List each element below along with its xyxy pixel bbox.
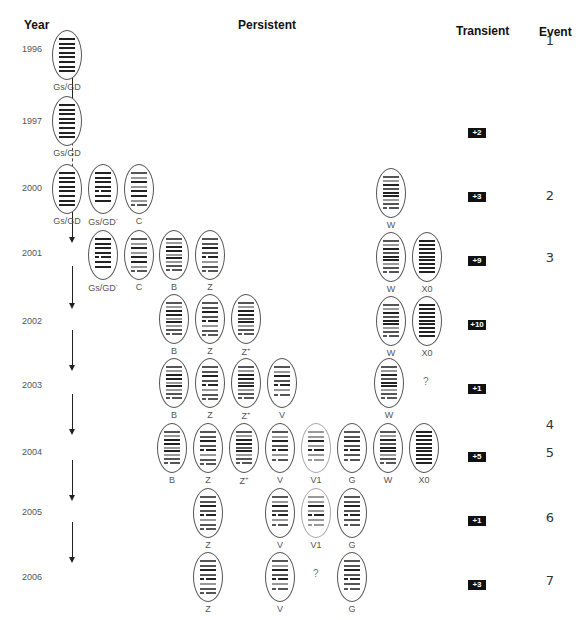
genotype-ellipse-icon: [409, 423, 439, 473]
genotype-ellipse-icon: [193, 423, 223, 473]
gene-band: [381, 378, 397, 380]
gene-band: [344, 501, 360, 503]
strain-gsgd: Gs/GD: [52, 164, 82, 226]
gene-band: [95, 181, 111, 183]
gene-band: [344, 454, 360, 456]
arrow-down-icon: [72, 266, 73, 304]
gene-band: [95, 172, 111, 174]
gene-band: [131, 247, 147, 249]
gene-band: [164, 450, 180, 452]
genotype-ellipse-icon: [231, 294, 261, 344]
gene-band: [383, 271, 399, 273]
gene-band: [164, 458, 180, 460]
strain-label: B: [159, 346, 189, 356]
strain-w: W: [376, 168, 406, 230]
strain-v1: V1: [301, 423, 331, 485]
gene-band: [200, 454, 216, 456]
strain-g: G: [337, 488, 367, 550]
gene-band: [419, 267, 435, 269]
gene-band: [59, 132, 75, 134]
gene-band: [238, 302, 254, 304]
gene-band: [381, 374, 397, 376]
gene-band: [166, 257, 182, 259]
strain-z: Z: [195, 294, 225, 356]
gene-band: [200, 510, 216, 512]
gene-band: [59, 127, 75, 129]
event-number: 5: [540, 445, 560, 460]
strain-label: B: [159, 282, 189, 292]
gene-band: [200, 449, 216, 451]
gene-band: [166, 302, 182, 304]
gene-band: [383, 244, 399, 246]
genotype-ellipse-icon: [373, 423, 403, 473]
gene-band: [238, 397, 254, 399]
gene-band: [95, 266, 111, 268]
gene-band: [272, 514, 288, 516]
gene-band: [202, 394, 218, 396]
gene-band: [344, 436, 360, 438]
strain-label: W: [374, 410, 404, 420]
gene-band: [383, 199, 399, 201]
gene-band: [59, 186, 75, 188]
strain-label: G: [337, 604, 367, 614]
gene-band: [383, 323, 399, 325]
strain-label: X0: [409, 475, 439, 485]
gene-band: [164, 431, 180, 433]
year-label: 2006: [12, 572, 52, 582]
genotype-ellipse-icon: [265, 488, 295, 538]
strain-label: G: [337, 540, 367, 550]
gene-band: [131, 190, 147, 192]
gene-band: [95, 195, 111, 197]
gene-band: [166, 254, 182, 256]
gene-band: [164, 443, 180, 445]
genotype-ellipse-icon: [267, 358, 297, 408]
gene-band: [238, 329, 254, 331]
genotype-ellipse-icon: [159, 230, 189, 280]
gene-band: [166, 269, 182, 271]
gene-band: [59, 200, 75, 202]
gene-band: [272, 578, 288, 580]
gene-band: [95, 256, 111, 258]
year-label: 2002: [12, 316, 52, 326]
strain-gsgdminus: Gs/GD-: [88, 230, 118, 293]
gene-band: [380, 443, 396, 445]
gene-band: [272, 445, 288, 447]
gene-band: [419, 335, 435, 337]
gene-band: [200, 514, 216, 516]
gene-band: [238, 389, 254, 391]
gene-band: [274, 380, 290, 382]
gene-band: [131, 177, 147, 179]
gene-band: [381, 370, 397, 372]
strain-label: Gs/GD-: [88, 216, 118, 227]
strain-x0: X0: [412, 232, 442, 294]
gene-band: [238, 366, 254, 368]
gene-band: [383, 263, 399, 265]
genotype-ellipse-icon: [412, 232, 442, 282]
gene-band: [202, 247, 218, 249]
event-number: 7: [540, 573, 560, 588]
gene-band: [131, 238, 147, 240]
gene-band: [236, 439, 252, 441]
gene-band: [202, 307, 218, 309]
gene-band: [202, 266, 218, 268]
strain-label: V: [265, 540, 295, 550]
genotype-ellipse-icon: [337, 488, 367, 538]
gene-band: [308, 449, 324, 451]
gene-band: [200, 505, 216, 507]
gene-band: [131, 252, 147, 254]
gene-band: [383, 240, 399, 242]
genotype-ellipse-icon: [301, 488, 331, 538]
gene-band: [238, 318, 254, 320]
gene-band: [238, 374, 254, 376]
gene-band: [236, 462, 252, 464]
gene-band: [131, 204, 147, 206]
genotype-ellipse-icon: [195, 358, 225, 408]
gene-band: [200, 574, 216, 576]
gene-band: [383, 308, 399, 310]
gene-band: [272, 505, 288, 507]
gene-band: [308, 436, 324, 438]
strain-label: C: [124, 216, 154, 226]
gene-band: [308, 459, 324, 461]
gene-band: [200, 431, 216, 433]
gene-band: [344, 578, 360, 580]
